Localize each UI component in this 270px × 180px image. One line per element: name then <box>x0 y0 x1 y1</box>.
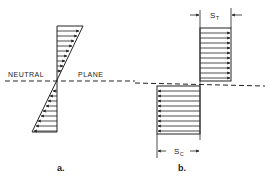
part-a-triangular-distribution <box>32 26 83 132</box>
part-b-rectangular-distribution <box>157 8 242 158</box>
compression-subscript: C <box>180 151 184 157</box>
tension-symbol: S <box>210 11 215 20</box>
stress-distribution-diagram: NEUTRAL PLANE a. <box>0 0 270 180</box>
compression-arrows-a <box>34 91 57 131</box>
tension-arrows-a <box>57 31 79 71</box>
compression-symbol: S <box>174 147 179 156</box>
neutral-label: NEUTRAL <box>8 71 44 78</box>
part-a-caption: a. <box>57 163 65 173</box>
part-b-caption: b. <box>178 163 186 173</box>
plane-label: PLANE <box>78 71 103 78</box>
tension-arrows-b <box>200 33 230 78</box>
compression-arrows-b <box>158 91 200 131</box>
neutral-plane-line <box>5 81 265 86</box>
tension-subscript: T <box>216 15 219 21</box>
